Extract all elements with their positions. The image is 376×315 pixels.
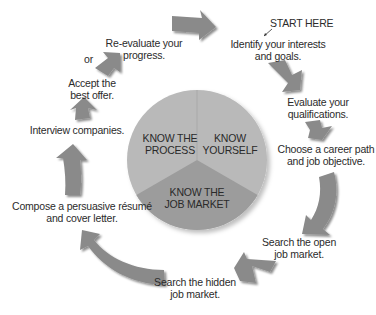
- step-identify-interests: Identify your interests and goals.: [218, 38, 338, 62]
- arrow-icon: [172, 10, 216, 40]
- arrow-icon: [268, 60, 302, 92]
- arrow-icon: [305, 120, 332, 140]
- step-compose-resume: Compose a persuasive résumé and cover le…: [12, 200, 152, 224]
- segment-label-process: KNOW THE PROCESS: [140, 132, 200, 156]
- step-choose-career-path: Choose a career path and job objective.: [276, 143, 376, 167]
- segment-label-job-market: KNOW THE JOB MARKET: [162, 186, 232, 210]
- start-here-label: START HERE: [270, 17, 333, 29]
- step-evaluate-qualifications: Evaluate your qualifications.: [283, 96, 353, 120]
- step-search-open-market: Search the open job market.: [254, 236, 344, 260]
- arrow-icon: [56, 144, 87, 195]
- segment-label-yourself: KNOW YOURSELF: [200, 132, 260, 156]
- arrow-icon: [302, 172, 336, 235]
- or-label: or: [84, 53, 93, 65]
- step-interview-companies: Interview companies.: [22, 124, 132, 136]
- step-search-hidden-market: Search the hidden job market.: [150, 276, 240, 300]
- step-accept-offer: Accept the best offer.: [62, 77, 122, 101]
- career-cycle-diagram: KNOW THE PROCESS KNOW YOURSELF KNOW THE …: [0, 0, 376, 315]
- step-reevaluate-progress: Re-evaluate your progress.: [104, 37, 184, 61]
